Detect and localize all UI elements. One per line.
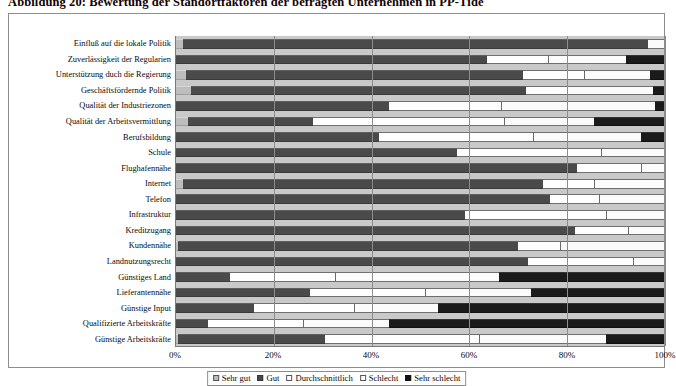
y-axis-label: Kundennähe — [19, 241, 171, 250]
bar-row — [176, 86, 665, 96]
x-axis-label: 0% — [169, 350, 181, 360]
bar-segment — [575, 226, 629, 236]
bar-segment — [176, 319, 208, 329]
y-axis-label: Qualität der Arbeitsvermittlung — [19, 117, 171, 126]
stacked-bar — [176, 163, 665, 173]
x-axis-label: 20% — [265, 350, 282, 360]
bar-segment — [230, 272, 335, 282]
stacked-bar — [176, 86, 665, 96]
y-axis-label: Telefon — [19, 195, 171, 204]
bar-segment — [183, 39, 648, 49]
bar-row — [176, 241, 665, 251]
y-axis-label: Günstige Input — [19, 304, 171, 313]
bar-segment — [176, 148, 457, 158]
bar-segment — [354, 303, 437, 313]
bar-row — [176, 303, 665, 313]
legend-item[interactable]: Sehr schlecht — [405, 373, 460, 383]
bar-segment — [303, 319, 389, 329]
y-axis-label: Flughafennähe — [19, 164, 171, 173]
bar-segment — [523, 70, 584, 80]
stacked-bar — [176, 241, 665, 251]
x-axis-label: 40% — [363, 350, 380, 360]
legend-label: Durchschnittlich — [295, 373, 352, 383]
bar-segment — [176, 226, 575, 236]
bar-segment — [176, 272, 230, 282]
y-axis-label: Qualifizierte Arbeitskräfte — [19, 319, 171, 328]
bar-row — [176, 179, 665, 189]
plot-right-edge — [664, 36, 665, 346]
bar-segment — [599, 194, 665, 204]
bar-segment — [178, 241, 518, 251]
bar-segment — [601, 148, 665, 158]
bar-segment — [650, 70, 665, 80]
bar-segment — [176, 210, 465, 220]
legend-item[interactable]: Schlecht — [360, 373, 399, 383]
bar-segment — [633, 257, 665, 267]
bar-segment — [379, 132, 533, 142]
y-axis-label: Einfluß auf die lokale Politik — [19, 39, 171, 48]
y-axis-label: Lieferantennähe — [19, 288, 171, 297]
bar-segment — [560, 241, 665, 251]
y-axis-label: Qualität der Industriezonen — [19, 101, 171, 110]
bar-segment — [550, 194, 599, 204]
bar-segment — [188, 117, 313, 127]
bar-row — [176, 210, 665, 220]
stacked-bar — [176, 257, 665, 267]
bar-segment — [457, 148, 601, 158]
bar-segment — [641, 132, 665, 142]
stacked-bar — [176, 70, 665, 80]
legend-swatch-icon — [286, 375, 292, 381]
stacked-bar — [176, 132, 665, 142]
legend-item[interactable]: Sehr gut — [213, 373, 251, 383]
bar-row — [176, 272, 665, 282]
gridline-40 — [372, 36, 373, 346]
y-axis-label: Zuverlässigkeit der Regularien — [19, 55, 171, 64]
bar-segment — [389, 319, 665, 329]
bar-segment — [176, 303, 254, 313]
bar-segment — [176, 132, 379, 142]
bar-segment — [176, 55, 487, 65]
bar-segment — [425, 288, 530, 298]
bar-segment — [626, 55, 665, 65]
y-axis-label: Internet — [19, 179, 171, 188]
bar-segment — [648, 39, 665, 49]
legend-item[interactable]: Durchschnittlich — [286, 373, 352, 383]
bar-segment — [176, 179, 183, 189]
bar-row — [176, 70, 665, 80]
x-axis-label: 60% — [461, 350, 478, 360]
stacked-bar — [176, 226, 665, 236]
bar-segment — [176, 257, 528, 267]
bar-segment — [465, 210, 607, 220]
y-axis-label: Schule — [19, 148, 171, 157]
legend-item[interactable]: Gut — [258, 373, 280, 383]
stacked-bar — [176, 101, 665, 111]
bar-segment — [518, 241, 560, 251]
bar-segment — [526, 86, 568, 96]
bar-row — [176, 148, 665, 158]
bar-row — [176, 226, 665, 236]
bar-segment — [176, 39, 183, 49]
stacked-bar — [176, 334, 665, 344]
bar-segment — [548, 55, 626, 65]
bar-row — [176, 194, 665, 204]
bar-segment — [501, 101, 655, 111]
bar-row — [176, 55, 665, 65]
bar-segment — [594, 117, 665, 127]
legend-label: Schlecht — [369, 373, 399, 383]
gridline-20 — [274, 36, 275, 346]
legend-label: Sehr schlecht — [414, 373, 460, 383]
bar-segment — [594, 179, 665, 189]
x-axis-labels: 0%20%40%60%80%100% — [175, 350, 665, 364]
bar-segment — [191, 86, 526, 96]
legend-label: Gut — [267, 373, 280, 383]
bar-segment — [183, 179, 542, 189]
stacked-bar — [176, 148, 665, 158]
bar-segment — [606, 334, 665, 344]
legend-swatch-icon — [360, 375, 366, 381]
bar-segment — [528, 257, 633, 267]
bar-rows — [176, 36, 665, 346]
bar-segment — [543, 179, 594, 189]
y-axis-label: Kreditzugang — [19, 226, 171, 235]
bar-segment — [176, 194, 550, 204]
